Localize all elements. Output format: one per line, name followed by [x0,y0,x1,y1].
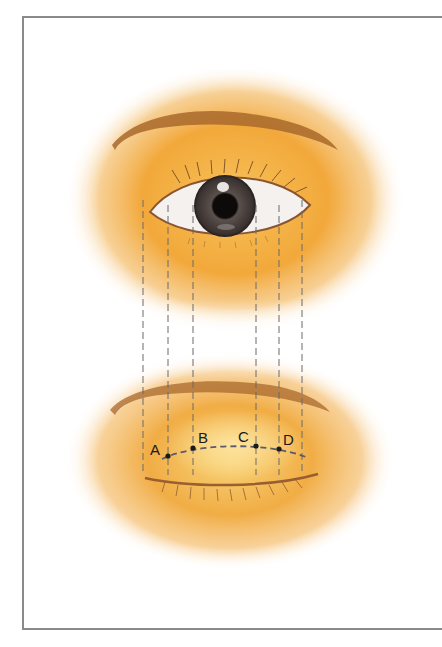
open-eye-region [65,65,405,335]
label-a: A [150,442,160,457]
closed-eye-region [65,350,395,570]
pupil [213,194,237,218]
point-d [276,446,281,451]
point-a [165,453,170,458]
label-c: C [238,429,249,444]
label-b: B [198,430,208,445]
label-d: D [283,432,294,447]
point-b [190,445,195,450]
point-c [253,443,258,448]
